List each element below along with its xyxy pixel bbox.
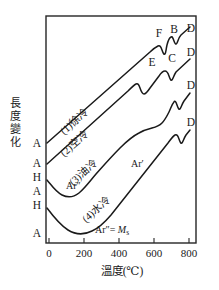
y-axis-start-state-marks: A A H A H A [33,137,42,239]
annotation-ar-prime: Ar′ [131,158,144,169]
length-change-vs-temperature-chart: 0 200 400 600 800 溫度(℃) 長 度 變 化 A A H A … [0,0,219,290]
y-axis-title-char-3: 變 [10,122,21,135]
x-axis-title: 溫度(℃) [101,264,144,278]
x-tick-label-400: 400 [111,247,128,259]
x-tick-label-200: 200 [76,247,93,259]
annotation-ms-prefix: Ar″= [95,224,118,235]
x-tick-label-0: 0 [46,247,52,259]
label-D-curve1: D [187,22,195,34]
start-mark-4: A [33,185,42,197]
svg-text:Ar″= Ms: Ar″= Ms [95,224,129,237]
dilatometry-figure: 0 200 400 600 800 溫度(℃) 長 度 變 化 A A H A … [0,0,219,290]
start-mark-6: A [33,227,42,239]
start-mark-5: H [33,199,41,211]
label-C: C [168,52,176,64]
label-D-curve2: D [187,46,195,58]
label-E: E [148,56,155,68]
y-axis-title: 長 度 變 化 [10,97,21,148]
label-B: B [170,23,178,35]
label-D-curve4: D [187,116,195,128]
label-F: F [156,27,162,39]
y-axis-title-char-1: 長 [10,97,21,109]
annotation-ar-double-prime: Ar″ [66,180,81,191]
x-tick-label-800: 800 [181,247,198,259]
y-axis-title-char-2: 度 [10,109,21,122]
annotation-ms: Ar″= Ms [95,224,129,237]
start-mark-3: H [33,171,41,183]
curve-label-slow-cooling: (1)徐冷 [57,106,91,138]
x-axis-tick-labels: 0 200 400 600 800 [46,247,198,259]
annotation-ms-subscript: s [126,228,129,237]
start-mark-2: A [33,157,42,169]
y-axis-title-char-4: 化 [10,135,21,148]
curve-label-water-cooling: (4)水冷 [79,194,113,226]
label-D-curve3: D [187,79,195,91]
x-tick-label-600: 600 [146,247,163,259]
start-mark-1: A [33,137,42,149]
x-axis-ticks [49,238,189,243]
